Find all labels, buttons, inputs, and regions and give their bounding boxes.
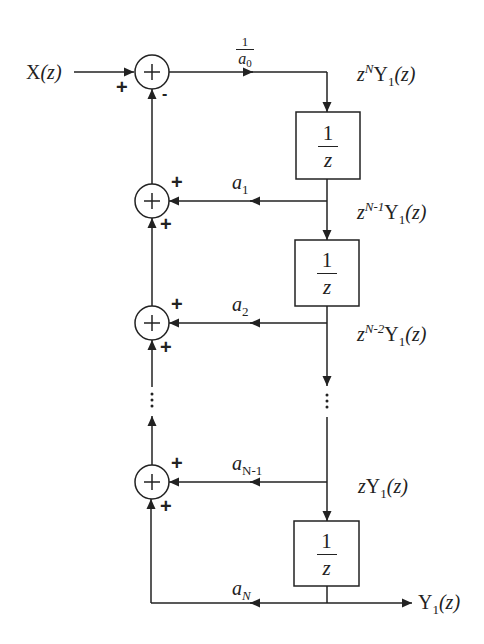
- coefficient-aN-1: aN-1: [232, 453, 262, 477]
- block-diagram: X(z) + - 1 a0 zNY1(z) 1z a1 + + zN-1Y1(z…: [0, 0, 484, 644]
- delay-2-label: 1z: [295, 249, 359, 298]
- coefficient-a1: a1: [232, 172, 249, 196]
- input-gain-numerator: 1: [234, 35, 256, 48]
- node-signal-3: zY1(z): [358, 476, 408, 500]
- summer-0-left-sign: +: [116, 77, 128, 97]
- node-signal-0: zNY1(z): [357, 62, 416, 88]
- coefficient-aN: aN: [232, 578, 251, 602]
- input-label-arg: (z): [40, 61, 61, 83]
- delay-3-label: 1z: [294, 530, 359, 579]
- delay-1-label: 1z: [296, 122, 360, 171]
- summer-1-right-sign: +: [171, 172, 183, 192]
- summer-3-right-sign: +: [171, 453, 183, 473]
- summer-1-bottom-sign: +: [160, 214, 172, 234]
- output-label: Y1(z): [418, 592, 460, 616]
- node-signal-2: zN-2Y1(z): [357, 322, 426, 348]
- summer-0-bottom-sign: -: [162, 86, 167, 102]
- node-signal-1: zN-1Y1(z): [357, 200, 426, 226]
- summer-3-bottom-sign: +: [160, 496, 172, 516]
- summer-2-right-sign: +: [171, 294, 183, 314]
- input-gain: 1 a0: [234, 35, 256, 71]
- summer-2-bottom-sign: +: [160, 337, 172, 357]
- coefficient-a2: a2: [232, 294, 249, 318]
- input-label: X(z): [26, 62, 62, 82]
- ellipsis-dots: [151, 393, 329, 409]
- input-label-base: X: [26, 61, 40, 83]
- input-gain-denominator: a0: [234, 51, 256, 71]
